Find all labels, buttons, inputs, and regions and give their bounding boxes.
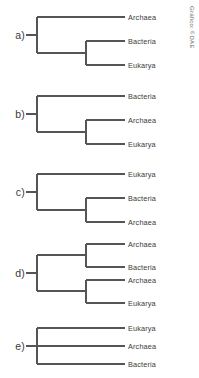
tip-label: Eukarya	[128, 300, 156, 307]
tree-group-d: d) Archaea Bacteria Archaea Eukarya	[0, 236, 170, 318]
tip-label: Bacteria	[128, 264, 156, 271]
tip-label: Bacteria	[128, 195, 156, 202]
credit-text: Gráfico: ©DAE	[189, 6, 196, 49]
tree-group-a: a) Archaea Bacteria Eukarya	[0, 0, 170, 80]
tip-label: Archaea	[128, 343, 156, 350]
tip-label: Archaea	[128, 14, 156, 21]
tip-label: Eukarya	[128, 171, 156, 178]
tip-label: Eukarya	[128, 141, 156, 148]
tip-label: Archaea	[128, 219, 156, 226]
tip-label: Archaea	[128, 117, 156, 124]
tip-label: Eukarya	[128, 62, 156, 69]
tip-label: Bacteria	[128, 38, 156, 45]
cladogram-figure: a) Archaea Bacteria Eukarya b)	[0, 0, 199, 378]
tip-label: Archaea	[128, 241, 156, 248]
tip-label: Eukarya	[128, 325, 156, 332]
tree-group-b: b) Bacteria Archaea Eukarya	[0, 80, 170, 158]
tip-label: Bacteria	[128, 361, 156, 368]
tree-group-e: e) Eukarya Archaea Bacteria	[0, 318, 170, 378]
credit-block: Gráfico: ©DAE	[186, 6, 198, 68]
tree-group-c: c) Eukarya Bacteria Archaea	[0, 158, 170, 236]
tip-label: Bacteria	[128, 93, 156, 100]
tip-label: Archaea	[128, 277, 156, 284]
